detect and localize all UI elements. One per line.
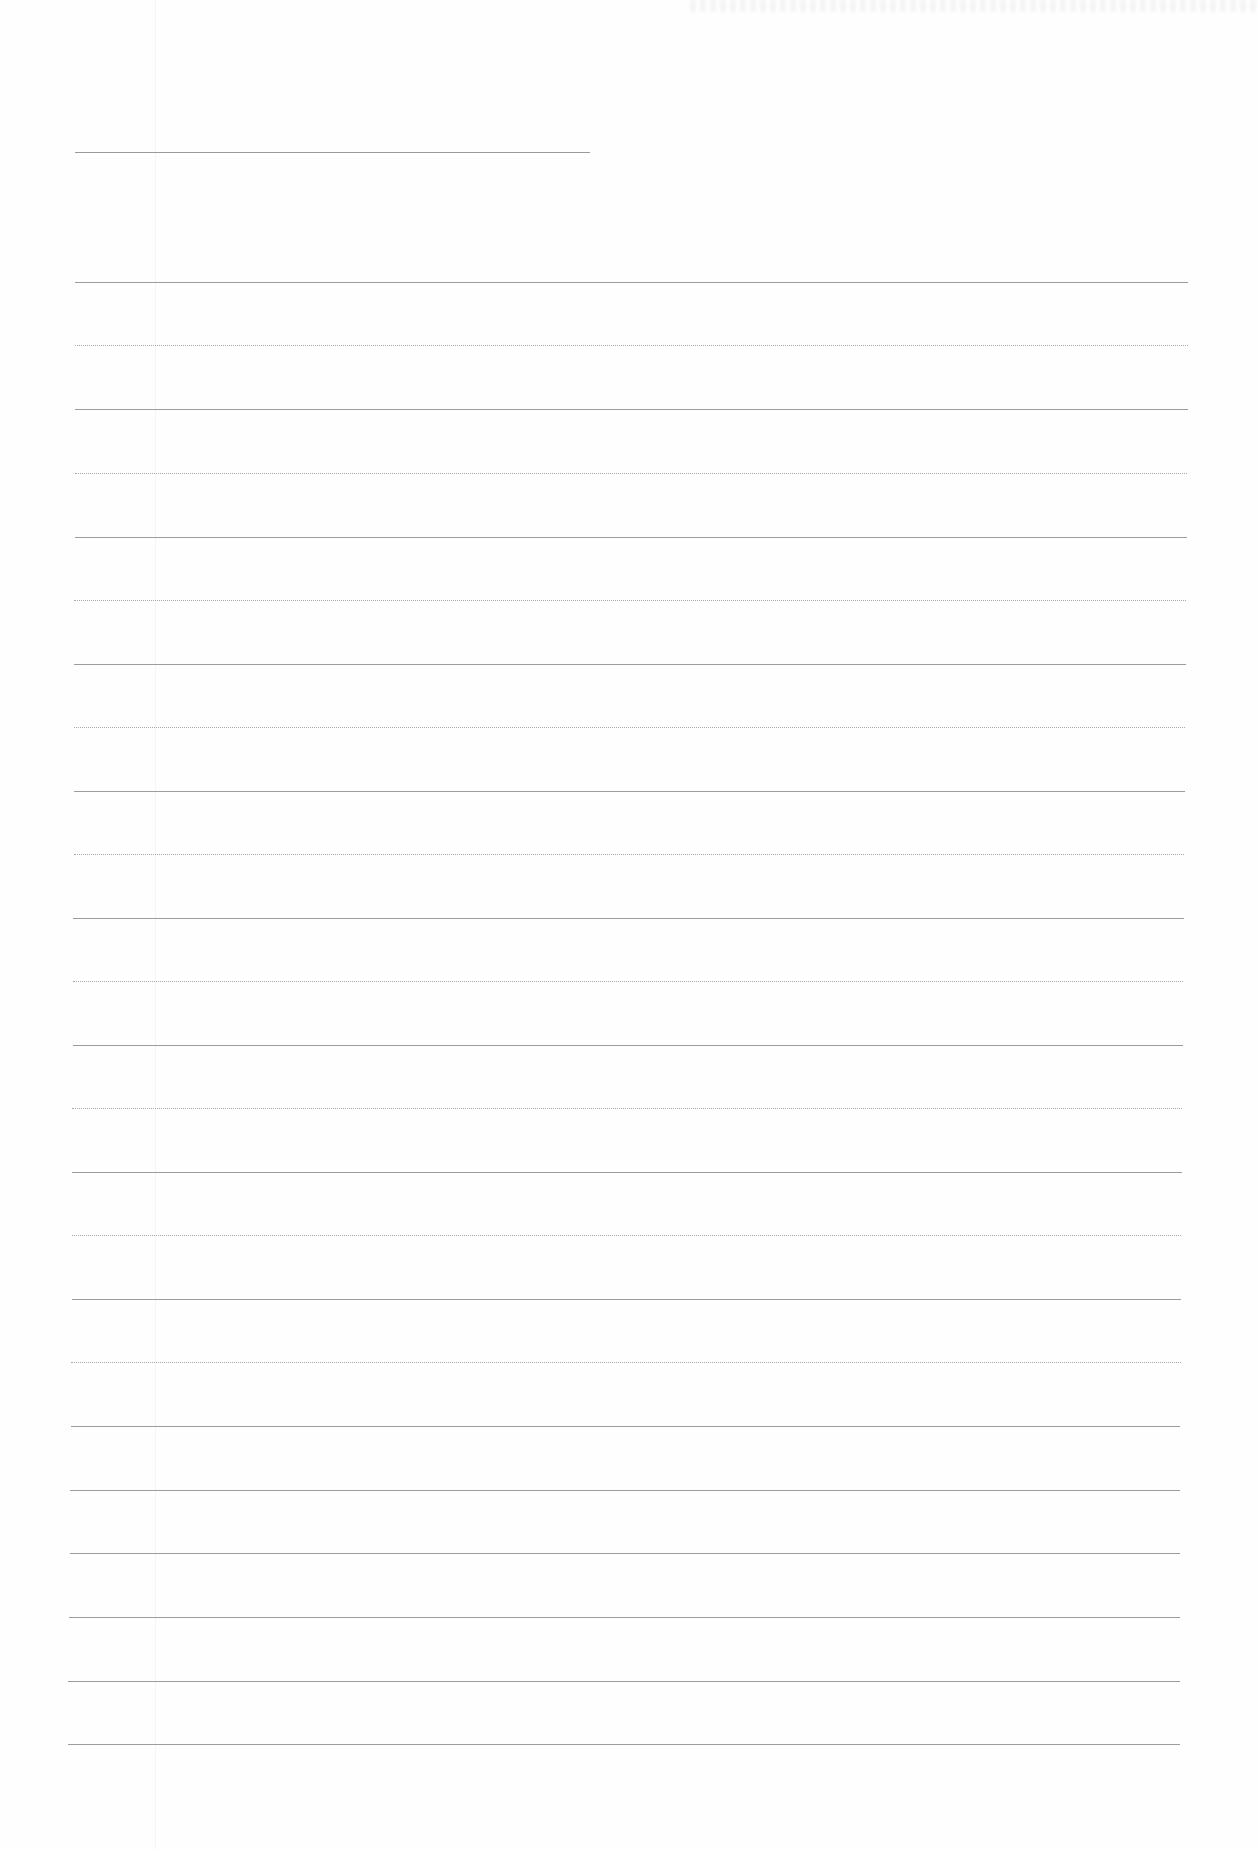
ruled-line <box>73 918 1184 919</box>
ruled-line <box>71 1362 1181 1363</box>
ruled-line <box>72 1108 1182 1109</box>
ruled-line <box>73 1045 1183 1046</box>
ruled-line <box>68 1744 1180 1745</box>
ruled-line <box>74 727 1185 728</box>
ruled-line <box>74 664 1186 665</box>
ruled-line <box>74 600 1186 601</box>
ruled-line <box>71 1426 1180 1427</box>
ruled-line <box>69 1617 1180 1618</box>
margin-line <box>155 0 156 1849</box>
ruled-line <box>72 1172 1182 1173</box>
ruled-line <box>75 409 1188 410</box>
header-title-line <box>75 152 590 153</box>
ruled-line <box>72 1299 1181 1300</box>
ruled-line <box>70 1553 1180 1554</box>
ruled-line <box>75 282 1188 283</box>
ruled-line <box>72 1235 1181 1236</box>
ruled-line <box>73 981 1183 982</box>
show-through-bleed <box>690 0 1258 12</box>
ruled-line <box>75 473 1187 474</box>
ruled-paper-page <box>0 0 1258 1849</box>
ruled-line <box>74 854 1184 855</box>
ruled-line <box>74 791 1185 792</box>
ruled-line <box>70 1490 1180 1491</box>
ruled-line <box>75 345 1188 346</box>
ruled-line <box>75 537 1187 538</box>
ruled-line <box>68 1681 1180 1682</box>
